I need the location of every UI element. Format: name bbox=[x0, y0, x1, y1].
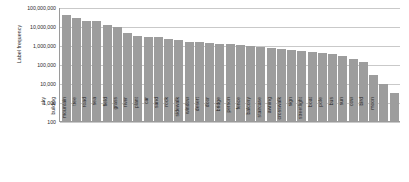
x-axis-tick-text: cow bbox=[347, 97, 354, 149]
x-axis-tick-text: building bbox=[49, 97, 56, 149]
x-axis-tick-text: sand bbox=[152, 97, 159, 149]
x-axis-tick-text: staircase bbox=[255, 97, 262, 149]
x-axis-tick-text: river bbox=[121, 97, 128, 149]
x-axis-tick-text: car bbox=[142, 97, 149, 149]
y-axis-tick-label: 100,000 bbox=[37, 62, 56, 68]
x-axis-tick-text: plant bbox=[132, 97, 139, 149]
x-axis-tick-label: moon bbox=[389, 123, 399, 182]
x-axis-tick-text: pole bbox=[316, 97, 323, 149]
x-axis-tick-text: desert bbox=[193, 97, 200, 149]
x-axis-tick-text: crosswalk bbox=[275, 97, 282, 149]
x-axis-tick-text: balcony bbox=[244, 97, 251, 149]
x-axis-tick-labels: skybuildingmountaintreeroadseafieldgrass… bbox=[59, 123, 400, 182]
x-axis-tick-text: sidewalk bbox=[173, 97, 180, 149]
x-axis-tick-text: sun bbox=[337, 97, 344, 149]
x-axis-tick-text: door bbox=[203, 97, 210, 149]
x-axis-tick-text: bird bbox=[357, 97, 364, 149]
x-axis-tick-text: window bbox=[183, 97, 190, 149]
x-axis-tick-text: boat bbox=[306, 97, 313, 149]
x-axis-tick-text: sea bbox=[90, 97, 97, 149]
y-axis-tick-label: 100,000,000 bbox=[27, 5, 56, 11]
x-axis-tick-text: rock bbox=[162, 97, 169, 149]
x-axis-tick-text: field bbox=[101, 97, 108, 149]
x-axis-tick-text: bridge bbox=[214, 97, 221, 149]
x-axis-tick-text: tree bbox=[70, 97, 77, 149]
x-axis-tick-label: bird bbox=[378, 123, 388, 182]
y-axis-tick-label: 10,000 bbox=[40, 81, 56, 87]
x-axis-tick-text: sign bbox=[286, 97, 293, 149]
bar bbox=[390, 93, 399, 121]
x-axis-tick-text: moon bbox=[368, 97, 375, 149]
x-axis-tick-text: road bbox=[80, 97, 87, 149]
bar-chart: Label frequency 100,000,00010,000,0001,0… bbox=[0, 0, 409, 182]
x-axis-tick-text: fence bbox=[234, 97, 241, 149]
y-axis-tick-label: 1,000,000 bbox=[33, 43, 56, 49]
x-axis-tick-text: mountain bbox=[60, 97, 67, 149]
x-axis-tick-text: streetlight bbox=[296, 97, 303, 149]
x-axis-tick-text: person bbox=[224, 97, 231, 149]
x-axis-tick-text: bus bbox=[327, 97, 334, 149]
x-axis-tick-text: sky bbox=[39, 97, 46, 149]
y-axis-tick-label: 10,000,000 bbox=[30, 24, 56, 30]
bar bbox=[379, 84, 388, 121]
x-axis-tick-text: awning bbox=[265, 97, 272, 149]
x-axis-tick-text: grass bbox=[111, 97, 118, 149]
